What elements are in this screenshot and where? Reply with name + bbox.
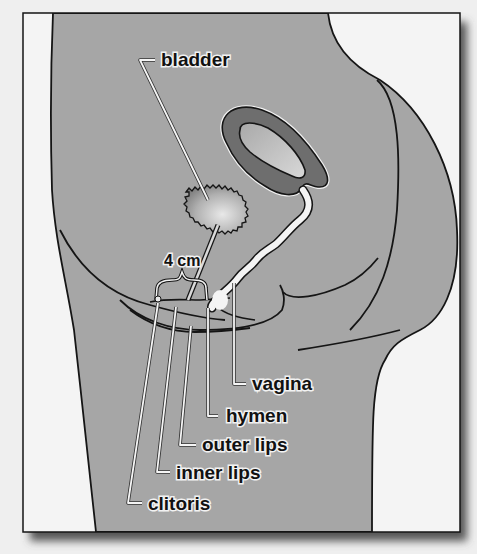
anatomy-figure: bladder 4 cm vagina hymen outer lips inn…: [0, 0, 477, 554]
label-vagina: vagina: [252, 373, 313, 394]
label-bladder: bladder: [161, 49, 230, 70]
label-outer-lips: outer lips: [202, 434, 288, 455]
label-inner-lips: inner lips: [176, 462, 260, 483]
clitoris-marker: [155, 296, 161, 302]
label-measurement: 4 cm: [164, 252, 200, 269]
label-clitoris: clitoris: [148, 493, 210, 514]
label-hymen: hymen: [226, 405, 287, 426]
